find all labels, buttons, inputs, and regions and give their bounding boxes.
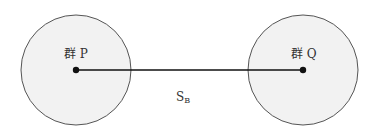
group-p-centroid-dot — [73, 67, 79, 73]
connector-label-sub: B — [184, 96, 190, 105]
group-p-label: 群 P — [64, 47, 88, 61]
diagram-canvas: 群 P 群 Q SB — [0, 0, 374, 136]
connector-label: SB — [176, 90, 190, 105]
group-q-centroid-dot — [300, 67, 306, 73]
connector-label-main: S — [176, 90, 184, 104]
group-q-label: 群 Q — [291, 47, 317, 61]
